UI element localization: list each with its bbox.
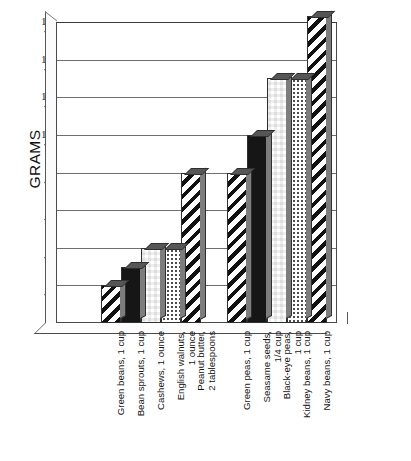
x-axis-label: Green peas, 1 cup xyxy=(242,331,253,410)
x-axis-label: Peanut butter,2 tablespoons xyxy=(196,331,217,391)
x-axis-label-line1: Seasame seeds, xyxy=(261,331,272,402)
x-axis-label: Kidney beans, 1 cup xyxy=(302,331,313,418)
x-axis-label: Bean sprouts, 1 cup xyxy=(136,331,147,416)
bar-side-face xyxy=(326,11,332,319)
x-axis-label-line1: Peanut butter, xyxy=(195,331,206,391)
bar-front-face xyxy=(102,286,120,322)
bar-side-face xyxy=(180,243,186,319)
x-axis-label-line1: Bean sprouts, 1 cup xyxy=(135,331,146,416)
x-axis-label: Green beans, 1 cup xyxy=(116,331,127,415)
x-axis-label-line2: 2 tablespoons xyxy=(207,331,218,391)
bar-chart: GRAMS 1614121086420 Green beans, 1 cupBe… xyxy=(0,0,411,461)
x-axis-label-line1: Cashews, 1 ounce xyxy=(155,331,166,410)
bar-side-face xyxy=(140,261,146,319)
bar-side-face xyxy=(246,167,252,319)
bar-side-face xyxy=(266,130,272,319)
x-axis-labels: Green beans, 1 cupBean sprouts, 1 cupCas… xyxy=(0,323,411,461)
x-axis-label: Cashews, 1 ounce xyxy=(156,331,167,410)
bar-side-face xyxy=(306,73,312,319)
x-axis-label: Black-eye peas,1 cup xyxy=(282,331,303,399)
bar xyxy=(101,285,121,323)
bar-side-face xyxy=(160,243,166,319)
x-axis-label-line1: Black-eye peas, xyxy=(281,331,292,399)
bar-side-face xyxy=(286,73,292,319)
x-axis-label-line1: Kidney beans, 1 cup xyxy=(301,331,312,418)
x-axis-label-line1: Green beans, 1 cup xyxy=(115,331,126,415)
bar xyxy=(227,173,247,324)
x-axis-label-line1: Navy beans, 1 cup xyxy=(321,331,332,410)
x-axis-label: Seasame seeds,1/4 cup xyxy=(262,331,283,402)
x-axis-label: Navy beans, 1 cup xyxy=(322,331,333,410)
x-axis-label: English walnuts,1 ounce xyxy=(176,331,197,400)
x-axis-label-line1: Green peas, 1 cup xyxy=(241,331,252,410)
bar-front-face xyxy=(228,174,246,323)
x-axis-label-line1: English walnuts, xyxy=(175,331,186,400)
bar-side-face xyxy=(200,167,206,319)
bar-series xyxy=(56,0,337,323)
